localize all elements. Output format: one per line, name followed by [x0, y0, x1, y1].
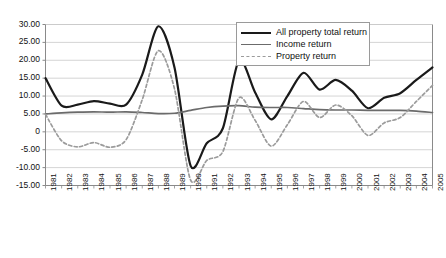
- y-axis-tick-label: -5.00: [0, 144, 40, 154]
- x-axis-tick-label: 1985: [114, 173, 123, 191]
- x-axis-tick-label: 1981: [49, 173, 58, 191]
- legend-item-total-return: All property total return: [241, 26, 364, 38]
- legend: All property total return Income return …: [236, 22, 370, 66]
- x-axis-tick-label: 1994: [259, 173, 268, 191]
- legend-swatch-dashed-icon: [241, 52, 271, 61]
- y-axis-tick-label: 5.00: [0, 108, 40, 118]
- x-axis-tick-label: 2002: [388, 173, 397, 191]
- legend-label: All property total return: [276, 27, 367, 38]
- y-axis-tick-label: -10.00: [0, 162, 40, 172]
- y-axis-tick-label: -15.00: [0, 180, 40, 190]
- x-axis-tick-label: 1996: [291, 173, 300, 191]
- legend-swatch-solid-thick-icon: [241, 28, 271, 37]
- x-axis-tick-label: 1983: [81, 173, 90, 191]
- series-line-2: [46, 51, 433, 183]
- x-axis-tick-label: 1984: [97, 173, 106, 191]
- x-axis-tick-label: 1989: [178, 173, 187, 191]
- x-axis-tick-label: 1998: [323, 173, 332, 191]
- x-axis-tick-label: 1991: [210, 173, 219, 191]
- plot-area: [0, 0, 446, 258]
- x-axis-tick-label: 1993: [243, 173, 252, 191]
- x-axis-tick-label: 1995: [275, 173, 284, 191]
- legend-item-income-return: Income return: [241, 38, 364, 50]
- x-axis-tick-label: 2003: [404, 173, 413, 191]
- legend-item-property-return: Property return: [241, 50, 364, 62]
- x-axis-tick-label: 2001: [372, 173, 381, 191]
- x-axis-tick-label: 2005: [436, 173, 445, 191]
- x-axis-tick-label: 1997: [307, 173, 316, 191]
- x-axis-tick-label: 1988: [162, 173, 171, 191]
- y-axis-tick-label: 20.00: [0, 54, 40, 64]
- x-axis-tick-label: 2000: [355, 173, 364, 191]
- y-axis-tick-label: 25.00: [0, 36, 40, 46]
- x-axis-tick-label: 1986: [130, 173, 139, 191]
- line-chart: 30.0025.0020.0015.0010.005.000-5.00-10.0…: [0, 0, 446, 258]
- y-axis-tick-label: 10.00: [0, 90, 40, 100]
- legend-label: Property return: [276, 51, 336, 62]
- x-axis-tick-label: 1992: [226, 173, 235, 191]
- y-axis-tick-label: 0: [0, 126, 40, 136]
- y-axis-tick-label: 30.00: [0, 19, 40, 29]
- legend-label: Income return: [276, 39, 332, 50]
- x-axis-tick-label: 1999: [339, 173, 348, 191]
- x-axis-tick-label: 2004: [420, 173, 429, 191]
- x-axis-tick-label: 1990: [194, 173, 203, 191]
- series-line-1: [46, 106, 433, 114]
- y-axis-tick-label: 15.00: [0, 72, 40, 82]
- legend-swatch-solid-thin-icon: [241, 40, 271, 49]
- x-axis-tick-label: 1982: [65, 173, 74, 191]
- x-axis-tick-label: 1987: [146, 173, 155, 191]
